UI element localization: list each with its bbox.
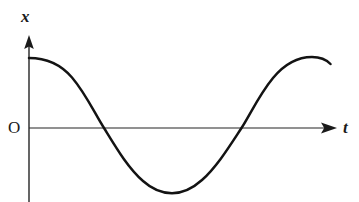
origin-label: O [8, 119, 20, 136]
horizontal-axis-label: t [343, 119, 348, 136]
displacement-time-figure: x t O [0, 0, 359, 202]
displacement-curve [29, 57, 331, 193]
vertical-axis-label: x [21, 8, 30, 25]
plot-canvas [0, 0, 359, 202]
